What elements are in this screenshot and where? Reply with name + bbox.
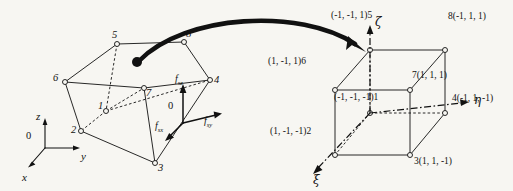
- reference-node-4: [443, 111, 448, 116]
- global-axis-label-z: z: [36, 111, 40, 122]
- force-label-sx: fsx: [155, 121, 163, 134]
- natural-axis-label-zeta: ζ: [375, 16, 382, 28]
- reference-node-label-6: (1, -1, 1)6: [268, 57, 306, 67]
- reference-cube-solid-edges: [335, 50, 445, 155]
- physical-node-1: [104, 109, 109, 114]
- mapping-arrow-group: [132, 21, 366, 67]
- reference-cube-nodes: [333, 48, 448, 158]
- global-axes-origin-label: 0: [26, 131, 31, 142]
- physical-node-label-4: 4: [214, 75, 219, 86]
- physical-node-label-1: 1: [98, 101, 103, 112]
- physical-node-2: [79, 129, 84, 134]
- global-axis-label-y: y: [81, 151, 86, 162]
- figure-container: 1 2 3 4 5 6 7 8 z y x 0 0 fsz fsy fsx (-…: [0, 0, 513, 191]
- reference-node-label-8: 8(-1, 1, 1): [448, 12, 486, 22]
- physical-node-3: [153, 161, 158, 166]
- mapping-arrow-curve: [139, 21, 355, 61]
- physical-node-label-3: 3: [158, 163, 163, 174]
- reference-node-3: [408, 153, 413, 158]
- force-label-sy: fsy: [204, 116, 212, 129]
- reference-node-label-5: (-1, -1, 1)5: [331, 11, 372, 21]
- physical-node-label-2: 2: [71, 125, 76, 136]
- physical-node-label-6: 6: [53, 73, 58, 84]
- reference-node-8: [443, 48, 448, 53]
- physical-node-label-8: 8: [186, 29, 191, 40]
- reference-node-7: [408, 88, 413, 93]
- physical-node-6: [63, 80, 68, 85]
- physical-node-label-5: 5: [112, 30, 117, 41]
- physical-node-8: [182, 40, 187, 45]
- reference-node-2: [333, 153, 338, 158]
- reference-node-label-1: (-1, -1, -1)1: [334, 93, 378, 103]
- mapping-arrow-head: [346, 36, 366, 52]
- global-axis-label-x: x: [22, 172, 27, 183]
- force-triad-origin-label: 0: [168, 101, 173, 112]
- reference-node-label-4: 4(-1, 1, -1): [452, 94, 493, 104]
- reference-node-label-3: 3(1, 1, -1): [414, 157, 452, 167]
- physical-node-4: [208, 78, 213, 83]
- force-triad-group: [165, 84, 222, 141]
- reference-node-label-7: 7(1, 1, 1): [412, 71, 447, 81]
- physical-node-label-7: 7: [146, 88, 151, 99]
- reference-node-label-2: (1, -1, -1)2: [270, 127, 311, 137]
- reference-cube-hidden-edges: [335, 50, 445, 155]
- force-label-sz: fsz: [175, 74, 183, 87]
- natural-axis-label-eta: η: [474, 94, 481, 106]
- natural-axis-label-xi: ξ: [313, 174, 320, 186]
- physical-node-5: [115, 42, 120, 47]
